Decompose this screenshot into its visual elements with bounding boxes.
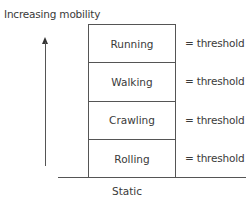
arrow-shaft — [45, 42, 46, 166]
level-rolling: Rolling — [89, 140, 175, 178]
static-label: Static — [112, 185, 142, 197]
threshold-crawling: = threshold — [185, 101, 251, 139]
threshold-running: = threshold — [185, 24, 251, 62]
threshold-walking: = threshold — [185, 62, 251, 100]
threshold-column: = threshold = threshold = threshold = th… — [185, 24, 251, 177]
mobility-stack: Running Walking Crawling Rolling — [88, 24, 176, 177]
baseline — [58, 177, 246, 178]
axis-label: Increasing mobility — [4, 8, 100, 20]
level-walking: Walking — [89, 63, 175, 101]
threshold-rolling: = threshold — [185, 139, 251, 177]
level-crawling: Crawling — [89, 102, 175, 140]
level-running: Running — [89, 25, 175, 63]
